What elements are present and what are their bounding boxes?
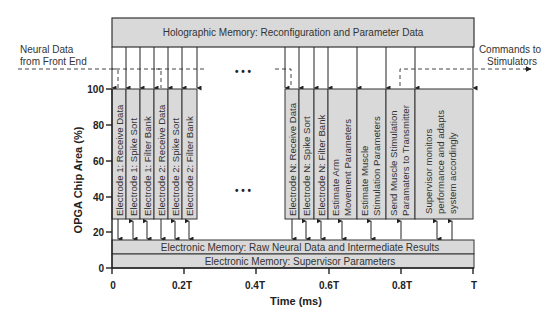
- y-axis-title: OPGA Chip Area (%): [72, 126, 84, 233]
- svg-text:T: T: [471, 280, 477, 291]
- task-en-receive: Electrode N: Receive Data: [287, 102, 298, 216]
- svg-text:0: 0: [110, 280, 116, 291]
- electronic-memory-supervisor-bar: Electronic Memory: Supervisor Parameters: [112, 254, 474, 268]
- task-send-stim-line2: Paramaters to Transmitter: [400, 104, 411, 216]
- x-axis: [112, 268, 474, 274]
- task-e2-filter-bank: Electrode 2: Filter Bank: [184, 116, 195, 216]
- electronic-memory-supervisor-label: Electronic Memory: Supervisor Parameters: [205, 256, 396, 267]
- task-e1-spike-sort: Electrode 1: Spike Sort: [128, 118, 139, 216]
- task-estimate-arm-line1: Estimate Arm: [330, 159, 341, 216]
- svg-text:0.6T: 0.6T: [319, 280, 339, 291]
- svg-text:60: 60: [93, 156, 105, 167]
- commands-label-line1: Commands to: [479, 44, 542, 55]
- holographic-memory-box: Holographic Memory: Reconfiguration and …: [112, 18, 474, 47]
- task-estimate-muscle-line1: Estimate Muscle: [359, 146, 370, 216]
- neural-data-label-line1: Neural Data: [20, 44, 74, 55]
- task-estimate-muscle-line2: Stimulation Parameters: [371, 116, 382, 216]
- commands-label-line2: Stimulators: [487, 56, 537, 67]
- task-en-spike-sort: Electrode N: Spike Sort: [301, 116, 312, 216]
- svg-text:0.8T: 0.8T: [392, 280, 412, 291]
- task-e1-receive: Electrode 1: Receive Data: [114, 104, 125, 216]
- task-en-filter-bank: Electrode N: Filter Bank: [316, 114, 327, 216]
- task-supervisor-line3: system accordingly: [447, 132, 458, 214]
- holographic-memory-label: Holographic Memory: Reconfiguration and …: [163, 27, 424, 38]
- ellipsis-top: • • •: [235, 66, 252, 77]
- task-e1-filter-bank: Electrode 1: Filter Bank: [142, 116, 153, 216]
- neural-data-label-line2: from Front End: [20, 56, 87, 67]
- ellipsis-middle: • • •: [235, 185, 252, 196]
- svg-text:0: 0: [98, 263, 104, 274]
- svg-text:40: 40: [93, 192, 105, 203]
- electronic-memory-raw-label: Electronic Memory: Raw Neural Data and I…: [161, 242, 439, 253]
- x-tick-labels: 0 0.2T 0.4T 0.6T 0.8T T: [110, 280, 477, 291]
- svg-text:0.4T: 0.4T: [245, 280, 265, 291]
- svg-text:80: 80: [93, 120, 105, 131]
- electronic-memory-raw-bar: Electronic Memory: Raw Neural Data and I…: [112, 240, 474, 254]
- task-supervisor-line1: Supervisor monitors: [423, 128, 434, 214]
- task-estimate-arm-line2: Movement Parameters: [342, 119, 353, 216]
- x-axis-title: Time (ms): [270, 295, 322, 307]
- task-supervisor-line2: performance and adapts: [435, 110, 446, 214]
- task-e2-spike-sort: Electrode 2: Spike Sort: [170, 118, 181, 216]
- svg-text:20: 20: [93, 227, 105, 238]
- svg-text:100: 100: [87, 84, 104, 95]
- holographic-config-arrows: [112, 47, 473, 88]
- y-axis: [106, 89, 112, 268]
- svg-text:0.2T: 0.2T: [172, 280, 192, 291]
- fpga-timeline-diagram: Holographic Memory: Reconfiguration and …: [0, 0, 560, 317]
- task-send-stim-line1: Send Muscle Stimulation: [388, 110, 399, 216]
- task-e2-receive: Electrode 2: Receive Data: [156, 104, 167, 216]
- y-tick-labels: 100 80 60 40 20 0: [87, 84, 104, 274]
